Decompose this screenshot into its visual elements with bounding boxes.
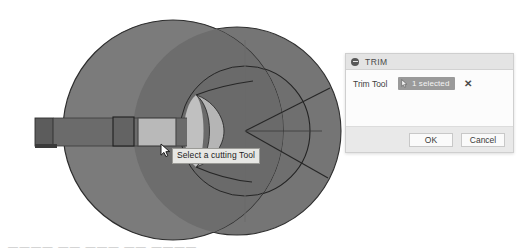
tooltip-text: Select a cutting Tool — [177, 150, 255, 160]
trim-dialog[interactable]: TRIM Trim Tool 1 selected ✕ OK Cancel — [345, 53, 514, 153]
bar-bottom-shadow — [35, 144, 57, 148]
cursor-select-icon — [401, 79, 408, 88]
minus-circle-icon[interactable] — [351, 58, 359, 66]
ok-button[interactable]: OK — [409, 133, 453, 147]
dialog-title-bar[interactable]: TRIM — [346, 54, 513, 70]
bar-left-cap — [35, 118, 53, 146]
trim-tool-label: Trim Tool — [353, 79, 391, 89]
dialog-body: Trim Tool 1 selected ✕ — [346, 70, 513, 126]
selected-face-highlight — [138, 118, 176, 146]
trim-tool-selection-chip[interactable]: 1 selected — [398, 77, 455, 90]
cursor-arrow-icon — [160, 143, 171, 158]
tooltip: Select a cutting Tool — [172, 148, 260, 164]
unselected-face — [113, 117, 134, 146]
dialog-footer: OK Cancel — [346, 126, 513, 152]
trim-tool-row: Trim Tool 1 selected ✕ — [353, 77, 506, 90]
bottom-cutoff-text: ———— —— ——— —— ———— — [0, 243, 520, 251]
dialog-title: TRIM — [365, 57, 388, 67]
trim-tool-selection-count: 1 selected — [412, 79, 449, 88]
bottom-cutoff-strip: ———— —— ——— —— ———— — [0, 243, 520, 251]
app-root: Select a cutting Tool TRIM Trim Tool 1 s… — [0, 0, 520, 251]
clear-selection-icon[interactable]: ✕ — [462, 79, 474, 89]
cancel-button[interactable]: Cancel — [461, 133, 505, 147]
